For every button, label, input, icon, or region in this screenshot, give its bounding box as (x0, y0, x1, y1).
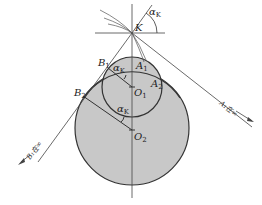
involute-curve-3 (108, 24, 132, 33)
label-b1: B1 (97, 57, 110, 70)
label-a1-infinity: A₁在∞ (217, 99, 239, 119)
involute-curve-1 (100, 10, 146, 60)
label-k: K (134, 22, 143, 33)
diagram-canvas: K αK B1 αK A1 A2 O1 B2 αK O2 A₁在∞ B₁在∞ (0, 0, 262, 205)
label-b2: B2 (73, 87, 86, 100)
arrow-a-infinity (247, 117, 254, 122)
label-b1-infinity: B₁在∞ (25, 140, 44, 162)
